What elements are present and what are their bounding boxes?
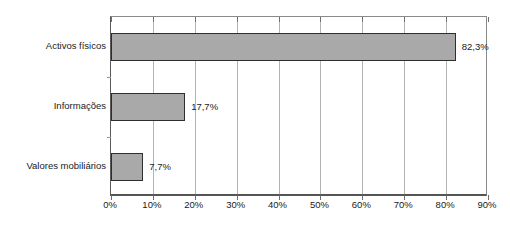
x-axis-tick-label: 40% xyxy=(268,200,287,210)
plot-area: 82,3%17,7%7,7% xyxy=(110,16,487,196)
top-tick-mark xyxy=(237,17,238,22)
bar-value-label: 7,7% xyxy=(149,162,171,172)
bar-chart-figure: 82,3%17,7%7,7% Activos físicosInformaçõe… xyxy=(0,0,510,234)
bar-value-label: 82,3% xyxy=(462,42,489,52)
top-tick-mark xyxy=(111,17,112,22)
x-axis-tick-label: 80% xyxy=(436,200,455,210)
bar xyxy=(111,153,143,181)
category-label: Activos físicos xyxy=(46,41,110,51)
top-tick-mark xyxy=(153,17,154,22)
x-axis-tick-label: 70% xyxy=(394,200,413,210)
category-label: Valores mobiliários xyxy=(26,161,110,171)
x-axis-tick-label: 30% xyxy=(226,200,245,210)
bar xyxy=(111,33,456,61)
x-axis-tick-label: 50% xyxy=(310,200,329,210)
x-axis-tick-label: 0% xyxy=(103,200,117,210)
chart-title xyxy=(0,0,510,2)
category-tick-mark xyxy=(107,137,111,138)
top-tick-mark xyxy=(446,17,447,22)
bar-value-label: 17,7% xyxy=(191,102,218,112)
top-tick-mark xyxy=(404,17,405,22)
category-tick-mark xyxy=(107,77,111,78)
top-tick-mark xyxy=(320,17,321,22)
bar xyxy=(111,93,185,121)
top-tick-mark xyxy=(195,17,196,22)
x-axis-tick-label: 10% xyxy=(142,200,161,210)
top-tick-mark xyxy=(279,17,280,22)
x-axis-tick-labels-group: 0%10%20%30%40%50%60%70%80%90% xyxy=(110,200,487,220)
category-label: Informações xyxy=(54,101,110,111)
x-axis-tick-label: 90% xyxy=(477,200,496,210)
x-axis-tick-label: 20% xyxy=(184,200,203,210)
top-tick-mark xyxy=(362,17,363,22)
top-tick-mark xyxy=(488,17,489,22)
x-axis-tick-label: 60% xyxy=(352,200,371,210)
